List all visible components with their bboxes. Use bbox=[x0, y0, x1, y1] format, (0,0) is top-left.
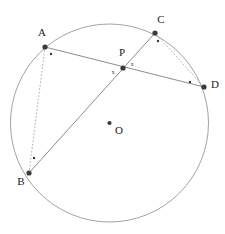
dot-at-c bbox=[157, 40, 159, 42]
point-label-o: O bbox=[115, 124, 123, 136]
chord-c-d bbox=[155, 33, 204, 87]
point-label-a: A bbox=[38, 26, 46, 38]
point-label-layer: ABCDPO bbox=[17, 13, 219, 187]
chord-a-b bbox=[29, 47, 45, 173]
point-dot-b bbox=[26, 170, 31, 175]
point-label-d: D bbox=[211, 78, 219, 90]
dot-at-d bbox=[189, 81, 191, 83]
point-label-p: P bbox=[119, 46, 125, 58]
dot-at-b bbox=[33, 157, 35, 159]
dot-at-a bbox=[50, 53, 52, 55]
chord-layer bbox=[29, 33, 204, 173]
point-dot-o bbox=[107, 121, 111, 125]
point-dot-a bbox=[42, 44, 47, 49]
point-dot-layer bbox=[26, 30, 206, 175]
point-dot-p bbox=[120, 65, 125, 70]
point-dot-c bbox=[152, 30, 157, 35]
angle-marker-x-right: x bbox=[131, 61, 134, 67]
geometry-canvas: ABCDPO xx bbox=[0, 0, 225, 234]
point-label-b: B bbox=[17, 175, 24, 187]
point-dot-d bbox=[201, 84, 206, 89]
angle-marker-x-left: x bbox=[112, 69, 115, 75]
chord-c-b bbox=[29, 33, 155, 173]
geometry-diagram: ABCDPO xx bbox=[0, 0, 225, 234]
point-label-c: C bbox=[157, 13, 164, 25]
angle-dot-layer bbox=[33, 40, 191, 159]
